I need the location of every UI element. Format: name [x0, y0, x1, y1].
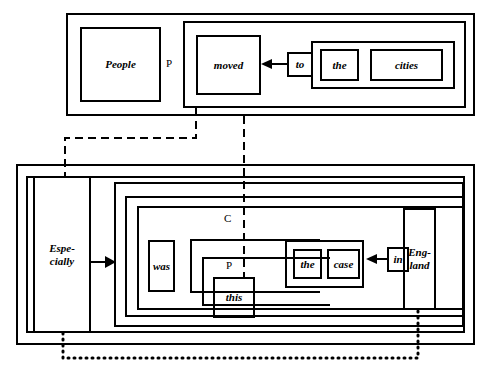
this-box	[213, 277, 255, 318]
moved-box	[196, 35, 261, 95]
the-box-bottom	[293, 249, 322, 279]
diagram-canvas: People P moved to the cities Espe- ciall…	[0, 0, 493, 374]
to-box	[287, 52, 313, 77]
category-label-p: P	[226, 259, 232, 271]
especially-box	[33, 176, 91, 333]
case-box	[327, 249, 360, 279]
the-box-top	[320, 49, 359, 81]
cities-box	[370, 49, 443, 81]
category-label-c: C	[224, 212, 231, 224]
england-box	[403, 208, 436, 310]
was-box	[148, 240, 175, 292]
category-label-top-p: P	[166, 57, 172, 69]
people-np-box	[80, 27, 161, 102]
